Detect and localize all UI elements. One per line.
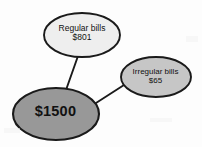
edge-total-regular xyxy=(66,56,78,90)
total-ellipse[interactable] xyxy=(13,88,99,140)
edge-total-irregular xyxy=(96,85,124,103)
regular-bills-ellipse[interactable] xyxy=(44,13,120,57)
diagram-canvas: Regular bills $801 Irregular bills $65 $… xyxy=(0,0,202,147)
irregular-bills-ellipse[interactable] xyxy=(121,57,191,97)
diagram-graphics xyxy=(0,0,202,147)
